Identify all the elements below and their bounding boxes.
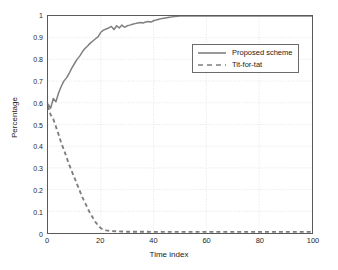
x-tick-label: 60 xyxy=(187,237,227,245)
y-tick-label: 0.1 xyxy=(3,209,43,216)
y-tick-label: 0.2 xyxy=(3,187,43,194)
x-tick-label: 0 xyxy=(27,237,67,245)
legend-swatch-solid xyxy=(197,49,227,57)
legend-item-tit-for-tat: Tit-for-tat xyxy=(197,59,262,71)
legend-label-proposed-scheme: Proposed scheme xyxy=(232,49,292,57)
legend-label-tit-for-tat: Tit-for-tat xyxy=(232,61,262,69)
legend-box: Proposed scheme Tit-for-tat xyxy=(192,44,299,73)
y-axis-label: Percentage xyxy=(10,73,19,163)
y-tick-label: 1 xyxy=(3,12,43,19)
y-tick-label: 0.9 xyxy=(3,33,43,40)
x-tick-label: 100 xyxy=(293,237,333,245)
x-tick-label: 40 xyxy=(133,237,173,245)
x-axis-label: Time index xyxy=(0,250,338,259)
legend-item-proposed-scheme: Proposed scheme xyxy=(197,47,292,59)
legend-swatch-dashed xyxy=(197,61,227,69)
chart-page: 00.10.20.30.40.50.60.70.80.91 0204060801… xyxy=(0,0,338,270)
y-tick-label: 0.8 xyxy=(3,55,43,62)
x-tick-label: 20 xyxy=(80,237,120,245)
y-tick-label: 0.3 xyxy=(3,165,43,172)
x-tick-label: 80 xyxy=(240,237,280,245)
series-line-1 xyxy=(48,106,312,232)
